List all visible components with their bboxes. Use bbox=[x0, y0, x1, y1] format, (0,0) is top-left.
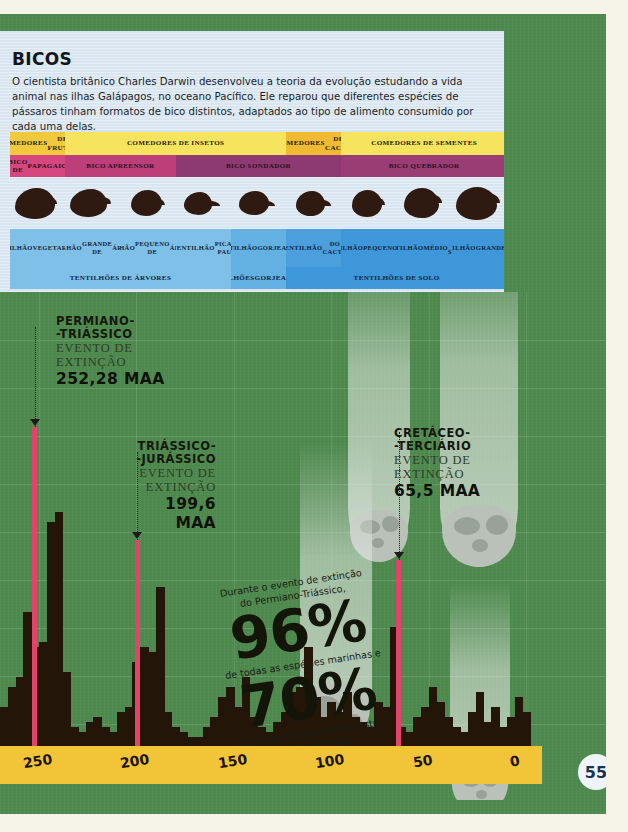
event-label-permiano-triassico: PERMIANO- -TRIÁSSICO EVENTO DE EXTINÇÃO … bbox=[56, 315, 165, 388]
event-value: 199,6 bbox=[98, 495, 216, 513]
extinction-marker-line-0 bbox=[32, 427, 37, 752]
extinction-callout: Durante o evento de extinção do Permiano… bbox=[186, 561, 420, 767]
beaks-header: BICOS O cientista britânico Charles Darw… bbox=[12, 49, 492, 134]
event-value: 65,5 MAA bbox=[394, 482, 480, 500]
event-sub1: EVENTO DE bbox=[394, 453, 480, 467]
event-label-cretaceo-terciario: CRETÁCEO- -TERCIÁRIO EVENTO DE EXTINÇÃO … bbox=[394, 427, 480, 500]
timeline-axis: 250200150100500 bbox=[0, 746, 542, 784]
beak-silhouette-4 bbox=[231, 177, 286, 229]
species-cell-2: TENTILHÃOPEQUENO DEÁRVORES bbox=[120, 229, 175, 267]
beak-silhouette-row bbox=[10, 177, 504, 229]
species-cell-3: TENTILHÃOPICA-PAU bbox=[176, 229, 231, 267]
beak-silhouette-1 bbox=[65, 177, 120, 229]
page-bottom-margin bbox=[0, 814, 628, 832]
group-cell-0: TENTILHÕES DE ÁRVORES bbox=[10, 267, 231, 289]
page-right-margin bbox=[606, 0, 628, 832]
species-row: TENTILHÃOVEGETARIANOTENTILHÃOGRANDE DEÁR… bbox=[10, 229, 504, 267]
beak-type-cell-1: BICO APREENSOR bbox=[65, 155, 175, 177]
extinction-arrow-1 bbox=[132, 532, 142, 539]
diet-cell-2: COMEDORESDE CACTO bbox=[286, 132, 341, 155]
beaks-table: COMEDORESDE FRUTASCOMEDORES DE INSETOSCO… bbox=[10, 132, 504, 289]
extinction-marker-line-1 bbox=[135, 540, 140, 752]
event-value-2: MAA bbox=[98, 514, 216, 532]
extinction-chart: PERMIANO- -TRIÁSSICO EVENTO DE EXTINÇÃO … bbox=[0, 292, 608, 800]
species-cell-6: TENTILHÃOPEQUENODE SOLO bbox=[341, 229, 396, 267]
beaks-body-text: O cientista britânico Charles Darwin des… bbox=[12, 74, 488, 134]
beak-silhouette-2 bbox=[120, 177, 175, 229]
beak-silhouette-6 bbox=[341, 177, 396, 229]
species-cell-4: TENTILHÃOGORJEADOR bbox=[231, 229, 286, 267]
comet-crater-2 bbox=[476, 790, 487, 799]
beak-silhouette-8 bbox=[452, 177, 504, 229]
species-cell-7: TENTILHÃOMÉDIODE SOLO bbox=[397, 229, 452, 267]
event-sub1: EVENTO DE bbox=[98, 466, 216, 480]
magazine-page: BICOS O cientista britânico Charles Darw… bbox=[0, 0, 628, 832]
diet-cell-1: COMEDORES DE INSETOS bbox=[65, 132, 286, 155]
event-name-line2: -TERCIÁRIO bbox=[394, 440, 480, 453]
event-sub1: EVENTO DE bbox=[56, 341, 165, 355]
event-sub2: EXTINÇÃO bbox=[394, 467, 480, 481]
axis-tick-250: 250 bbox=[22, 751, 53, 771]
group-cell-2: TENTILHÕES DE SOLO bbox=[286, 267, 504, 289]
diet-cell-3: COMEDORES DE SEMENTES bbox=[341, 132, 504, 155]
diet-row: COMEDORESDE FRUTASCOMEDORES DE INSETOSCO… bbox=[10, 132, 504, 155]
species-cell-5: TENTILHÃODO CACTO bbox=[286, 229, 341, 267]
event-label-triassico-jurassico: TRIÁSSICO- -JURÁSSICO EVENTO DE EXTINÇÃO… bbox=[98, 440, 216, 532]
beak-type-cell-3: BICO QUEBRADOR bbox=[341, 155, 504, 177]
extinction-leader-line-0 bbox=[35, 327, 36, 427]
event-sub2: EXTINÇÃO bbox=[56, 355, 165, 369]
beak-silhouette-3 bbox=[176, 177, 231, 229]
beak-type-row: BICO DEPAPAGAIOBICO APREENSORBICO SONDAD… bbox=[10, 155, 504, 177]
species-cell-0: TENTILHÃOVEGETARIANO bbox=[10, 229, 65, 267]
axis-tick-100: 100 bbox=[314, 751, 345, 771]
event-name-line2: -TRIÁSSICO bbox=[56, 328, 165, 341]
beak-silhouette-0 bbox=[10, 177, 65, 229]
beak-silhouette-7 bbox=[397, 177, 452, 229]
page-top-margin bbox=[0, 0, 628, 14]
axis-tick-50: 50 bbox=[412, 752, 434, 771]
beaks-panel: BICOS O cientista britânico Charles Darw… bbox=[0, 31, 504, 292]
extinction-arrow-0 bbox=[30, 419, 40, 426]
event-name-line2: -JURÁSSICO bbox=[98, 453, 216, 466]
beak-silhouette-5 bbox=[286, 177, 341, 229]
beak-type-cell-2: BICO SONDADOR bbox=[176, 155, 342, 177]
axis-tick-0: 0 bbox=[509, 752, 521, 769]
diet-cell-0: COMEDORESDE FRUTAS bbox=[10, 132, 65, 155]
species-group-row: TENTILHÕES DE ÁRVORESTENTILHÕESGORJEADOR… bbox=[10, 267, 504, 289]
axis-tick-200: 200 bbox=[119, 751, 150, 771]
beaks-title: BICOS bbox=[12, 49, 492, 69]
group-cell-1: TENTILHÕESGORJEADORES bbox=[231, 267, 286, 289]
event-sub2: EXTINÇÃO bbox=[98, 480, 216, 494]
axis-tick-150: 150 bbox=[217, 751, 248, 771]
species-cell-8: TENTILHÃOGRANDEDE SOLO bbox=[452, 229, 504, 267]
beak-type-cell-0: BICO DEPAPAGAIO bbox=[10, 155, 65, 177]
event-value: 252,28 MAA bbox=[56, 370, 165, 388]
species-cell-1: TENTILHÃOGRANDE DEÁRVORES bbox=[65, 229, 120, 267]
extinction-arrow-2 bbox=[394, 552, 404, 559]
